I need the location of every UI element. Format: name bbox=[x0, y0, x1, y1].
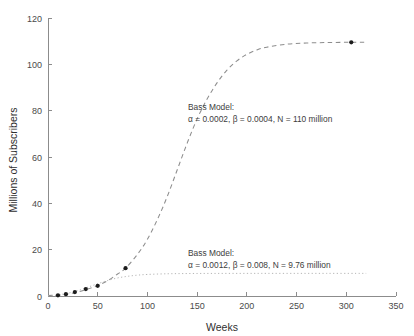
x-tick-label: 0 bbox=[45, 301, 50, 311]
upper-annotation-line1: Bass Model: bbox=[188, 102, 234, 112]
lower-annotation-line2: α = 0.0012, β = 0.008, N = 9.76 million bbox=[188, 260, 331, 270]
chart-figure: 050100150200250300350020406080100120 Mil… bbox=[0, 0, 414, 336]
x-tick-label: 200 bbox=[239, 301, 254, 311]
x-tick-label: 350 bbox=[388, 301, 403, 311]
y-tick-label: 40 bbox=[32, 199, 42, 209]
x-tick-label: 250 bbox=[289, 301, 304, 311]
upper-bass-model-annotation: Bass Model: α = 0.0002, β = 0.0004, N = … bbox=[188, 102, 333, 124]
y-axis-title: Millions of Subscribers bbox=[7, 107, 19, 212]
data-point-marker bbox=[56, 293, 60, 297]
y-tick-label: 80 bbox=[32, 106, 42, 116]
y-tick-label: 120 bbox=[27, 14, 42, 24]
bass-model-chart: 050100150200250300350020406080100120 Mil… bbox=[0, 0, 414, 336]
lower-annotation-line1: Bass Model: bbox=[188, 248, 234, 258]
x-tick-label: 300 bbox=[339, 301, 354, 311]
x-axis-title: Weeks bbox=[206, 321, 238, 333]
data-point-marker bbox=[96, 284, 100, 288]
x-tick-label: 50 bbox=[93, 301, 103, 311]
upper-annotation-line2: α = 0.0002, β = 0.0004, N = 110 million bbox=[188, 114, 333, 124]
data-markers-group bbox=[56, 40, 354, 297]
data-point-marker bbox=[73, 290, 77, 294]
data-point-marker bbox=[349, 40, 353, 44]
y-tick-label: 100 bbox=[27, 60, 42, 70]
lower-bass-model-annotation: Bass Model: α = 0.0012, β = 0.008, N = 9… bbox=[188, 248, 331, 270]
dotted-bass-curve bbox=[48, 273, 366, 295]
y-tick-label: 60 bbox=[32, 153, 42, 163]
y-tick-label: 20 bbox=[32, 245, 42, 255]
x-tick-label: 100 bbox=[140, 301, 155, 311]
data-point-marker bbox=[123, 266, 127, 270]
x-tick-label: 150 bbox=[190, 301, 205, 311]
y-tick-label: 0 bbox=[37, 292, 42, 302]
data-point-marker bbox=[84, 287, 88, 291]
data-point-marker bbox=[64, 292, 68, 296]
